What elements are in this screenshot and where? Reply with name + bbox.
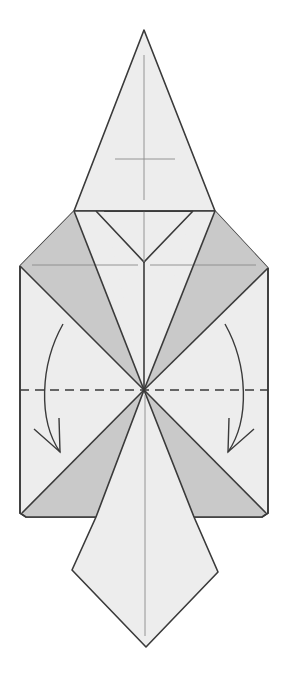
diagram-canvas <box>0 0 288 675</box>
origami-diagram <box>0 0 288 675</box>
hat-triangle <box>74 30 215 211</box>
